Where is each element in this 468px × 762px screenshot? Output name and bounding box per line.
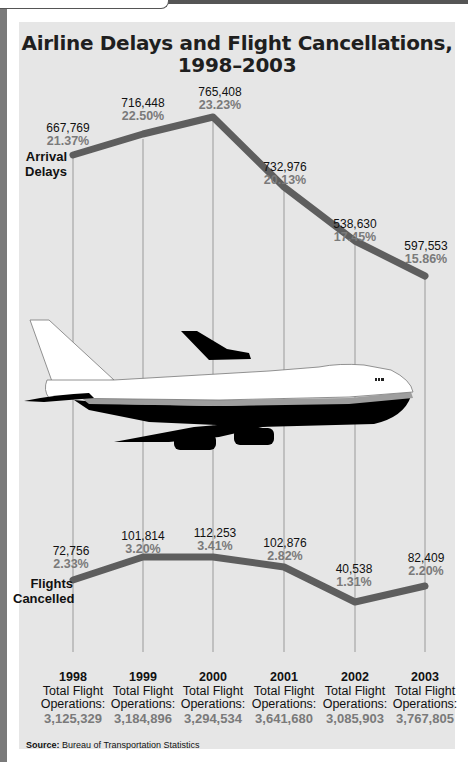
year-column-2001: 2001Total FlightOperations:3,641,680 bbox=[244, 671, 324, 725]
cancelled-point-1999: 101,8143.20% bbox=[113, 530, 173, 556]
page-top-rule bbox=[165, 0, 468, 4]
chart-panel: Airline Delays and Flight Cancellations,… bbox=[19, 22, 455, 749]
arrival-point-1999: 716,44822.50% bbox=[113, 97, 173, 123]
arrival-point-2000: 765,40823.23% bbox=[190, 86, 250, 112]
page-edge-bar bbox=[0, 0, 7, 762]
arrival-point-2003: 597,55315.86% bbox=[396, 240, 456, 266]
decorative-dots bbox=[178, 0, 200, 6]
year-column-1999: 1999Total FlightOperations:3,184,896 bbox=[103, 671, 183, 725]
year-column-1998: 1998Total FlightOperations:3,125,329 bbox=[33, 671, 113, 725]
source-note: Source: Bureau of Transportation Statist… bbox=[26, 740, 200, 750]
year-column-2002: 2002Total FlightOperations:3,085,903 bbox=[315, 671, 395, 725]
arrival-point-1998: 667,76921.37% bbox=[38, 122, 98, 148]
arrival-point-2001: 732,97620.13% bbox=[255, 161, 315, 187]
cancelled-point-2003: 82,4092.20% bbox=[396, 552, 456, 578]
cancelled-point-2000: 112,2533.41% bbox=[185, 527, 245, 553]
year-column-2000: 2000Total FlightOperations:3,294,534 bbox=[173, 671, 253, 725]
cancelled-point-2001: 102,8762.82% bbox=[255, 537, 315, 563]
cancelled-point-1998: 72,7562.33% bbox=[41, 545, 101, 571]
arrival-delays-line bbox=[73, 117, 425, 276]
arrival-point-2002: 538,63017.45% bbox=[325, 218, 385, 244]
year-column-2003: 2003Total FlightOperations:3,767,805 bbox=[385, 671, 465, 725]
flights-cancelled-label: Flights Cancelled bbox=[13, 576, 73, 606]
page-tab bbox=[0, 0, 169, 9]
arrival-delays-label: Arrival Delays bbox=[21, 149, 67, 179]
cancelled-point-2002: 40,5381.31% bbox=[324, 563, 384, 589]
